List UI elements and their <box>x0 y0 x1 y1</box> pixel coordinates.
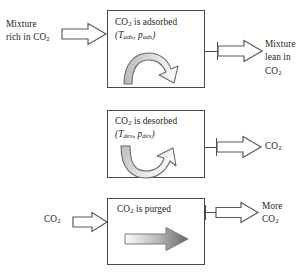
output-label-line-3: CO2 <box>265 65 296 78</box>
output-label-line-1: CO2 <box>265 140 282 153</box>
output-label-line-2: CO2 <box>262 213 283 226</box>
row-purge-input-arrow <box>72 211 108 233</box>
row-desorption-process-text: CO2 is desorbed (Tdes, pdes) <box>115 115 177 141</box>
input-label-line-1: CO2 <box>44 213 61 226</box>
output-label-line-1: More <box>262 200 283 213</box>
process-title: CO2 is desorbed <box>115 115 177 128</box>
row-purge-process-text: CO2 is purged <box>117 203 171 216</box>
row-adsorption-inner-curved-arrow <box>122 52 192 86</box>
row-purge-inner-straight-arrow <box>124 226 190 252</box>
input-label-line-1: Mixture <box>6 18 50 31</box>
output-label-line-1: Mixture <box>265 38 296 51</box>
row-purge-output-connector-vertical <box>205 205 206 220</box>
subscript: 2 <box>57 217 60 224</box>
process-title: CO2 is purged <box>117 203 171 216</box>
row-purge-output-arrow <box>215 201 259 224</box>
row-adsorption-input-arrow <box>61 22 107 46</box>
subscript: 2 <box>275 218 278 225</box>
input-label-line-2: rich in CO2 <box>6 31 50 44</box>
process-diagram: Mixture rich in CO2 CO2 is adsorbed (Tad… <box>0 0 297 272</box>
row-desorption-output-arrow <box>216 135 262 159</box>
row-adsorption-process-text: CO2 is adsorbed (Tads, pads) <box>115 16 177 42</box>
process-conditions: (Tads, pads) <box>115 29 177 42</box>
row-adsorption-output-arrow <box>217 39 263 63</box>
subscript: 2 <box>278 144 281 151</box>
row-adsorption-output-label: Mixture lean in CO2 <box>265 38 296 78</box>
row-purge-output-label: More CO2 <box>262 200 283 227</box>
output-label-line-2: lean in <box>265 51 296 64</box>
subscript: 2 <box>278 69 281 76</box>
row-desorption-inner-curved-arrow <box>119 145 191 179</box>
row-desorption-output-label: CO2 <box>265 140 282 153</box>
process-title: CO2 is adsorbed <box>115 16 177 29</box>
row-adsorption-output-connector <box>204 51 218 52</box>
subscript: 2 <box>46 36 49 43</box>
process-conditions: (Tdes, pdes) <box>115 128 177 141</box>
row-purge-input-label: CO2 <box>44 213 61 226</box>
row-adsorption-input-label: Mixture rich in CO2 <box>6 18 50 45</box>
